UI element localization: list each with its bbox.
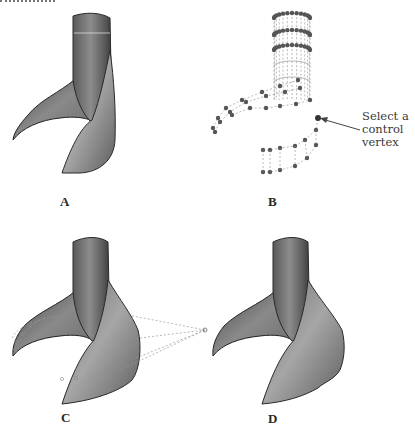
panel-label-c: C: [61, 410, 70, 426]
surface-shaded-a: [0, 0, 200, 215]
panel-label-a: A: [60, 194, 69, 210]
panel-label-d: D: [268, 411, 277, 427]
surface-result-d: [200, 220, 415, 434]
panel-d: D: [200, 220, 415, 434]
panel-c: C: [0, 220, 220, 434]
callout-text: Select a control vertex: [362, 110, 409, 149]
arrowhead-icon: [320, 117, 328, 123]
panel-b: B Select a control vertex: [200, 0, 415, 215]
panel-a: A: [0, 0, 200, 215]
surface-edited-c: [0, 220, 220, 434]
callout-arrow: [200, 0, 415, 215]
callout-line-3: vertex: [362, 136, 409, 149]
